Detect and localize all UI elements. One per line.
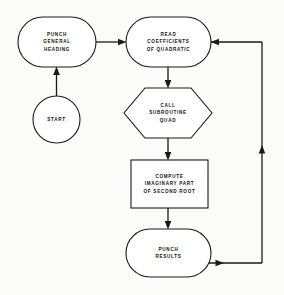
connector-punch-results-loop-back-to-read <box>209 39 265 267</box>
connector-compute-to-punch-results <box>165 208 172 230</box>
node-call-subroutine-quad[interactable] <box>124 88 212 138</box>
connector-punch-general-heading-to-read <box>96 39 127 46</box>
node-read-coefficients-of-quadratic[interactable] <box>126 17 211 67</box>
node-punch-results[interactable] <box>126 229 211 277</box>
flowchart-canvas: PUNCH GENERAL HEADING START READ COEFFIC… <box>0 0 284 295</box>
node-start[interactable] <box>33 96 80 143</box>
node-punch-general-heading[interactable] <box>18 17 96 67</box>
flowchart-svg <box>0 0 284 295</box>
node-compute-imaginary-part-of-second-root[interactable] <box>131 160 208 208</box>
connector-start-to-punch-general-heading <box>53 67 60 97</box>
connector-call-subroutine-to-compute <box>165 138 172 161</box>
connector-read-to-call-subroutine <box>165 67 172 89</box>
